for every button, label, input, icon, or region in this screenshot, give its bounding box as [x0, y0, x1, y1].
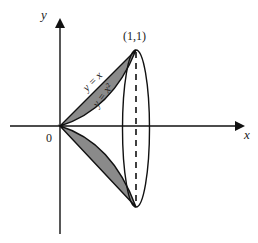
cross-section-ellipse — [123, 50, 150, 207]
point-label: (1,1) — [123, 29, 146, 43]
solid-of-revolution-diagram: y x 0 (1,1) y = x y = x² — [0, 0, 258, 243]
x-axis-label: x — [243, 127, 250, 142]
diagram-canvas: y x 0 (1,1) y = x y = x² — [0, 0, 258, 243]
y-axis-label: y — [39, 7, 47, 22]
origin-label: 0 — [46, 131, 52, 145]
